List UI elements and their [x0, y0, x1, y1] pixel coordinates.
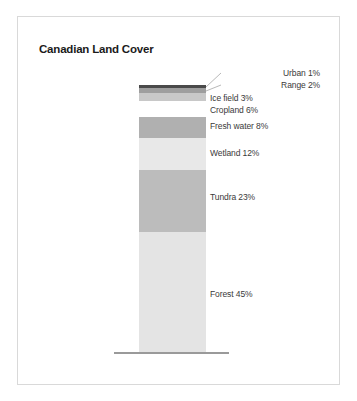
segment-label-urban: Urban 1% — [283, 68, 320, 78]
bar-segment-fresh-water[interactable] — [139, 117, 206, 138]
bar-segment-wetland[interactable] — [139, 138, 206, 170]
segment-label-cropland: Cropland 6% — [210, 105, 258, 115]
plot-area: Urban 1% Range 2% Ice field 3% Cropland … — [18, 17, 341, 386]
stacked-bar — [139, 85, 206, 352]
baseline-rule — [114, 352, 229, 354]
segment-label-forest: Forest 45% — [210, 289, 252, 299]
bar-segment-cropland[interactable] — [139, 101, 206, 117]
bar-segment-tundra[interactable] — [139, 170, 206, 231]
chart-figure: Canadian Land Cover Urban 1% Range 2% Ic… — [17, 16, 340, 385]
segment-label-range: Range 2% — [281, 80, 320, 90]
segment-label-ice-field: Ice field 3% — [210, 93, 253, 103]
bar-segment-forest[interactable] — [139, 232, 206, 352]
segment-label-wetland: Wetland 12% — [210, 148, 259, 158]
segment-label-tundra: Tundra 23% — [210, 192, 255, 202]
bar-segment-ice-field[interactable] — [139, 93, 206, 101]
segment-label-fresh-water: Fresh water 8% — [210, 121, 268, 131]
